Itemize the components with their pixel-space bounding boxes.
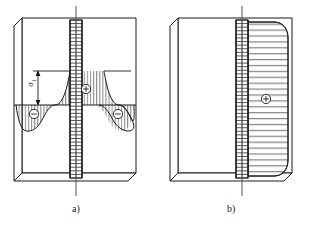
minus-marker-right-a: [113, 109, 122, 118]
plate-left-bevel-b: [170, 18, 178, 181]
plus-marker-a: [81, 84, 90, 93]
panel-b: [170, 6, 292, 196]
plus-marker-b: [261, 94, 270, 103]
sigma-dimension-label: σ1: [25, 79, 37, 86]
panel-a: [12, 6, 138, 196]
plate-left-bevel-a: [14, 18, 22, 181]
minus-marker-left-a: [29, 109, 38, 118]
caption-a: a): [72, 203, 80, 214]
engineering-figure: [0, 0, 311, 226]
caption-b: b): [227, 203, 235, 214]
